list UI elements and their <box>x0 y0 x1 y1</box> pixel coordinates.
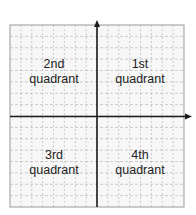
quadrant-2-label: 2nd quadrant <box>14 57 94 87</box>
coordinate-plane-diagram: 2nd quadrant 1st quadrant 3rd quadrant 4… <box>0 0 196 215</box>
quadrant-4-word: quadrant <box>100 163 180 178</box>
y-axis-arrow-icon <box>94 20 100 27</box>
coordinate-plane-graphic <box>0 0 196 215</box>
quadrant-1-ordinal: 1st <box>100 57 180 72</box>
quadrant-4-label: 4th quadrant <box>100 148 180 178</box>
quadrant-1-word: quadrant <box>100 72 180 87</box>
x-axis-arrow-icon <box>185 114 192 120</box>
quadrant-2-word: quadrant <box>14 72 94 87</box>
quadrant-3-word: quadrant <box>14 163 94 178</box>
quadrant-3-ordinal: 3rd <box>14 148 94 163</box>
quadrant-4-ordinal: 4th <box>100 148 180 163</box>
quadrant-1-label: 1st quadrant <box>100 57 180 87</box>
quadrant-3-label: 3rd quadrant <box>14 148 94 178</box>
quadrant-2-ordinal: 2nd <box>14 57 94 72</box>
